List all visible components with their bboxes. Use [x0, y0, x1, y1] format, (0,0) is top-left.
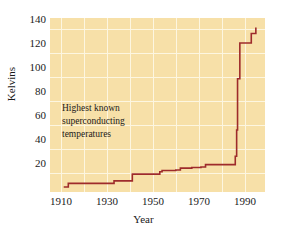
- plot-area: Highest known superconducting temperatur…: [50, 18, 265, 192]
- y-tick-label-60: 60: [14, 110, 46, 121]
- x-tick-label-1910: 1910: [38, 196, 84, 207]
- y-tick-label-80: 80: [14, 86, 46, 97]
- data-series-line: [50, 18, 265, 192]
- x-tick-label-1990: 1990: [222, 196, 268, 207]
- x-tick-label-1970: 1970: [176, 196, 222, 207]
- series-polyline: [64, 28, 256, 187]
- y-tick-label-140: 140: [14, 14, 46, 25]
- y-tick-label-40: 40: [14, 134, 46, 145]
- y-tick-label-120: 120: [14, 38, 46, 49]
- x-tick-label-1930: 1930: [84, 196, 130, 207]
- y-tick-label-20: 20: [14, 158, 46, 169]
- x-axis-title: Year: [0, 213, 287, 225]
- y-tick-label-100: 100: [14, 62, 46, 73]
- x-tick-label-1950: 1950: [130, 196, 176, 207]
- superconductivity-chart: Kelvins 140 120 100 80 60 40 20 Highest …: [0, 0, 287, 242]
